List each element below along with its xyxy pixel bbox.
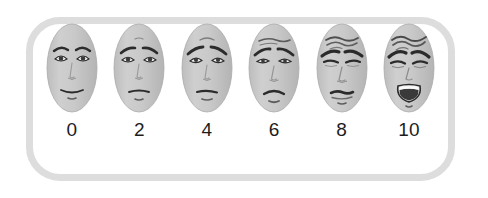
face-cell-10[interactable]: 10 <box>377 22 441 139</box>
face-label-0: 0 <box>67 120 78 139</box>
face-label-2: 2 <box>134 120 145 139</box>
face-label-6: 6 <box>269 120 280 139</box>
face-icon-neutral-smiling <box>44 22 100 114</box>
face-icon-worried <box>179 22 235 114</box>
face-cell-6[interactable]: 6 <box>242 22 306 139</box>
faces-row: 0 <box>33 22 448 176</box>
face-label-4: 4 <box>201 120 212 139</box>
face-icon-distressed <box>246 22 302 114</box>
pain-scale-root: 0 <box>0 0 488 198</box>
face-label-8: 8 <box>336 120 347 139</box>
face-icon-slightly-worried <box>111 22 167 114</box>
face-cell-8[interactable]: 8 <box>310 22 374 139</box>
face-cell-4[interactable]: 4 <box>175 22 239 139</box>
face-cell-0[interactable]: 0 <box>40 22 104 139</box>
face-icon-crying <box>381 22 437 114</box>
face-label-10: 10 <box>398 120 420 139</box>
face-cell-2[interactable]: 2 <box>107 22 171 139</box>
face-icon-grimacing <box>314 22 370 114</box>
